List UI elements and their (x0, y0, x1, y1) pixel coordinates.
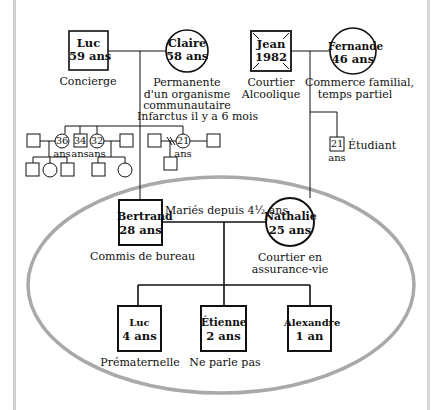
sibling-32-unit: ans (87, 149, 107, 159)
bertrand-age: 28 ans (117, 224, 164, 237)
child-alexandre-name: Alexandre (284, 316, 335, 329)
child-etienne-note: Ne parle pas (180, 356, 270, 369)
child-etienne-age: 2 ans (201, 330, 246, 343)
sibling-34-label: 34 (73, 136, 87, 146)
luc-grandfather-age: 59 ans (69, 50, 108, 63)
sibling-32-label: 32 (90, 136, 104, 146)
maternal-sibling-unit: ans (327, 153, 347, 163)
child-alexandre-age: 1 an (288, 330, 331, 343)
maternal-sibling-note: Étudiant (348, 139, 398, 152)
sibling-21-label: 21 (176, 136, 190, 146)
bertrand-note: Commis de bureau (90, 250, 190, 263)
nathalie-note-2: assurance-vie (250, 263, 330, 276)
claire-note-4: Infarctus il y a 6 mois (137, 110, 237, 123)
child-luc-name: Luc (118, 316, 161, 329)
sibling-36-unit: ans (52, 149, 72, 159)
nathalie-age: 25 ans (264, 224, 316, 237)
sibling-36-label: 36 (55, 136, 69, 146)
child-luc-age: 4 ans (118, 330, 161, 343)
bertrand-name: Bertrand (117, 210, 164, 223)
marriage-label: Mariés depuis 4½ ans (165, 204, 265, 217)
luc-grandfather-note: Concierge (48, 75, 128, 88)
sibling-21-unit: ans (173, 149, 193, 159)
fernande-age: 46 ans (328, 53, 378, 66)
jean-year: 1982 (251, 51, 291, 64)
child-etienne-name: Étienne (201, 316, 246, 329)
nathalie-name: Nathalie (264, 210, 316, 223)
maternal-sibling-label: 21 (330, 139, 344, 149)
claire-age: 58 ans (166, 50, 208, 63)
fernande-note-2: temps partiel (305, 88, 405, 101)
child-luc-note: Prématernelle (95, 356, 185, 369)
jean-note-2: Alcoolique (231, 88, 311, 101)
